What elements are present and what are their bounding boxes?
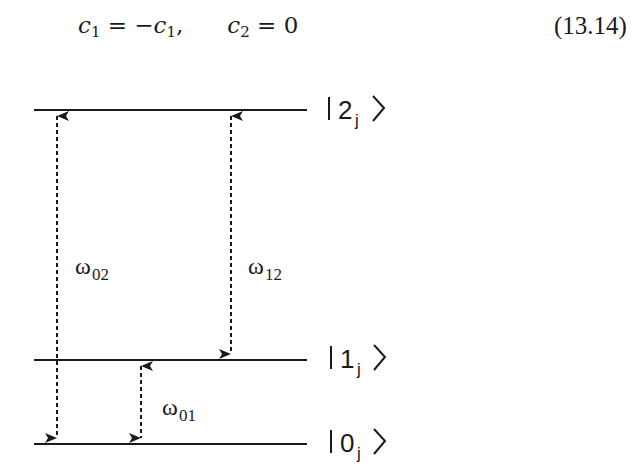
svg-text:12: 12 bbox=[265, 265, 282, 284]
label-omega-01: ω 01 bbox=[162, 394, 196, 425]
svg-text:2: 2 bbox=[338, 95, 352, 125]
svg-text:j: j bbox=[356, 360, 361, 379]
label-omega-02: ω 02 bbox=[75, 253, 109, 284]
svg-text:0: 0 bbox=[340, 428, 354, 458]
svg-text:01: 01 bbox=[179, 406, 196, 425]
ket-2-label: 2 j bbox=[329, 95, 384, 130]
svg-text:ω: ω bbox=[162, 394, 178, 420]
svg-text:j: j bbox=[354, 111, 359, 130]
ket-1-label: 1 j bbox=[331, 344, 385, 379]
svg-text:02: 02 bbox=[92, 265, 109, 284]
svg-text:j: j bbox=[356, 444, 361, 463]
label-omega-12: ω 12 bbox=[248, 253, 282, 284]
svg-text:ω: ω bbox=[75, 253, 91, 279]
ket-0-label: 0 j bbox=[331, 428, 385, 463]
energy-level-diagram: 2 j 1 j 0 j ω 02 ω 12 ω 01 bbox=[0, 0, 633, 469]
svg-text:1: 1 bbox=[340, 344, 354, 374]
svg-text:ω: ω bbox=[248, 253, 264, 279]
